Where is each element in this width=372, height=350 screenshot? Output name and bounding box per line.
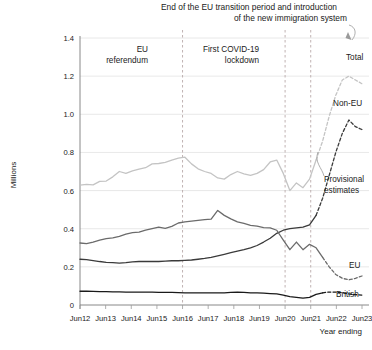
x-tick-label-Jun17: Jun17 <box>198 314 219 323</box>
series-line-eu <box>80 210 323 257</box>
series-line-provisional-total <box>316 76 362 160</box>
y-tick-label-0.8: 0.8 <box>63 148 74 157</box>
series-label-total: Total <box>346 53 363 62</box>
chart-title-line-1: End of the EU transition period and intr… <box>161 2 337 12</box>
x-axis-title: Year ending <box>320 327 362 336</box>
series-line-provisional-non-eu <box>316 120 362 215</box>
annotation-vlines-group <box>183 30 311 305</box>
series-label-eu: EU <box>349 261 360 270</box>
y-tick-label-1.0: 1.0 <box>63 110 74 119</box>
annotation-eu-referendum-line-2: referendum <box>106 56 148 65</box>
x-tick-label-Jun20: Jun20 <box>275 314 296 323</box>
x-tick-label-Jun19: Jun19 <box>249 314 270 323</box>
data-series-group <box>80 76 362 298</box>
immigration-line-chart: 00.20.40.60.81.01.21.4Millions Jun12Jun1… <box>0 0 372 350</box>
chart-title-line-2: of the new immigration system <box>234 13 347 23</box>
title-leader-arrow <box>346 32 352 40</box>
x-tick-label-Jun21: Jun21 <box>300 314 321 323</box>
x-axis-ticks-group: Jun12Jun13Jun14Jun15Jun16Jun17Jun18Jun19… <box>70 305 372 336</box>
chart-svg: 00.20.40.60.81.01.21.4Millions Jun12Jun1… <box>0 0 372 350</box>
y-axis-ticks-group: 00.20.40.60.81.01.21.4Millions <box>9 34 74 310</box>
annotation-provisional-line-1: Provisional <box>324 175 364 184</box>
y-tick-label-1.4: 1.4 <box>63 34 74 43</box>
x-tick-label-Jun14: Jun14 <box>121 314 142 323</box>
x-tick-label-Jun13: Jun13 <box>95 314 116 323</box>
y-axis-title: Millions <box>9 162 18 189</box>
series-line-british <box>80 291 323 298</box>
y-tick-label-0.6: 0.6 <box>63 187 74 196</box>
series-label-non-eu: Non-EU <box>333 99 362 108</box>
series-label-british: British <box>336 290 359 299</box>
annotation-provisional-line-2: estimates <box>324 186 359 195</box>
series-line-non-eu <box>80 215 316 263</box>
x-tick-label-Jun12: Jun12 <box>70 314 91 323</box>
y-tick-label-1.2: 1.2 <box>63 72 74 81</box>
annotation-covid-lockdown-line-1: First COVID-19 <box>203 45 259 54</box>
text-labels-group: End of the EU transition period and intr… <box>106 2 364 299</box>
x-tick-label-Jun16: Jun16 <box>172 314 193 323</box>
annotation-covid-lockdown-line-2: lockdown <box>225 56 260 65</box>
x-tick-label-Jun18: Jun18 <box>223 314 244 323</box>
x-tick-label-Jun22: Jun22 <box>326 314 347 323</box>
y-tick-label-0.2: 0.2 <box>63 263 74 272</box>
annotation-eu-referendum-line-1: EU <box>137 45 148 54</box>
y-tick-label-0.4: 0.4 <box>63 225 74 234</box>
y-tick-label-0: 0 <box>70 301 74 310</box>
x-tick-label-Jun15: Jun15 <box>147 314 168 323</box>
x-tick-label-Jun23: Jun23 <box>352 314 372 323</box>
series-line-total <box>80 157 316 190</box>
